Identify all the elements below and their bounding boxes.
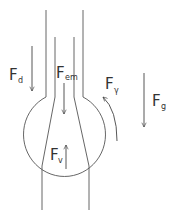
- force-buoyancy: F v: [50, 145, 66, 169]
- droplet-force-diagram: F d F em F γ F g F v: [0, 0, 173, 216]
- gravity-label-main: F: [152, 92, 161, 110]
- force-electromagnetic: F em: [56, 64, 78, 114]
- buoyancy-label-sub: v: [58, 156, 63, 165]
- force-drag: F d: [9, 46, 32, 91]
- electromagnetic-label-main: F: [56, 64, 65, 82]
- droplet-outline: [23, 97, 105, 176]
- electromagnetic-label-sub: em: [65, 73, 78, 82]
- surface-tension-curved-arrow-icon: [103, 97, 117, 141]
- nozzle-outer-walls: [46, 10, 83, 97]
- drag-label-main: F: [9, 66, 18, 84]
- surface-tension-label-sub: γ: [114, 86, 119, 95]
- surface-tension-label-main: F: [105, 75, 114, 93]
- gravity-label-sub: g: [161, 102, 166, 111]
- force-gravity: F g: [144, 73, 166, 127]
- drag-label-sub: d: [18, 76, 23, 85]
- electrode-inner-walls: [42, 37, 89, 210]
